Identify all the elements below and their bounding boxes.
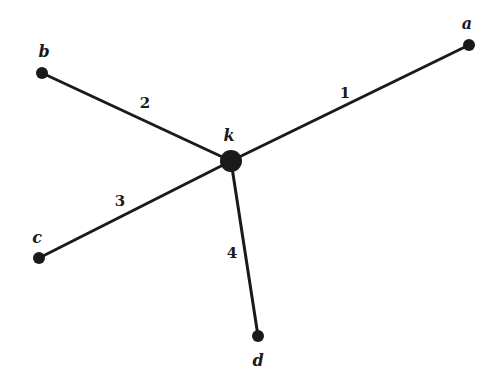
node-label-k: k xyxy=(223,126,234,145)
edges-layer xyxy=(39,45,469,336)
node-label-d: d xyxy=(252,351,263,370)
edge-label-4: 4 xyxy=(227,244,237,262)
edge-label-2: 2 xyxy=(140,94,150,112)
node-k-center xyxy=(220,150,242,172)
edge-label-3: 3 xyxy=(115,192,125,210)
node-d xyxy=(252,330,264,342)
edge-2-k-b xyxy=(42,73,231,161)
edge-1-k-a xyxy=(231,45,469,161)
node-label-c: c xyxy=(32,228,42,247)
edge-3-k-c xyxy=(39,161,231,258)
node-labels-layer: a b c d k xyxy=(32,14,472,370)
node-a xyxy=(463,39,475,51)
node-label-b: b xyxy=(38,42,49,61)
nodes-layer xyxy=(33,39,475,342)
node-c xyxy=(33,252,45,264)
node-label-a: a xyxy=(462,14,472,33)
node-b xyxy=(36,67,48,79)
star-graph-diagram: 1 2 3 4 a b c d k xyxy=(0,0,501,378)
edge-label-1: 1 xyxy=(340,84,350,102)
